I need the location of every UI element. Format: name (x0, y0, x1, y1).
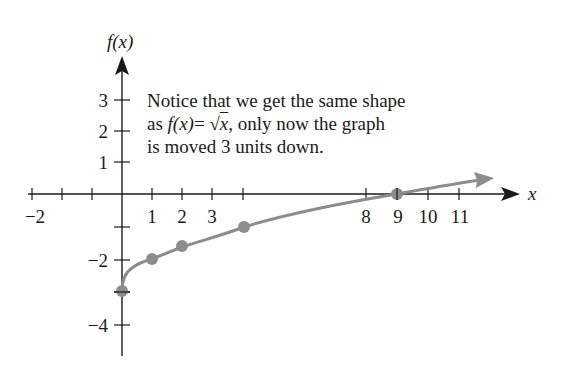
data-point (116, 285, 128, 297)
x-tick-label: 11 (451, 206, 469, 227)
y-tick-label: 2 (99, 121, 109, 142)
x-tick-label: 9 (393, 206, 403, 227)
y-tick-label: −2 (88, 250, 108, 271)
annotation-line-1: Notice that we get the same shape (147, 89, 406, 112)
curve-arrow-icon (474, 172, 494, 188)
graph-canvas: −2 1 2 3 8 9 10 11 3 2 1 −2 −4 x f(x) (0, 0, 564, 365)
data-point (238, 221, 250, 233)
data-point (176, 240, 188, 252)
y-tick-label: 3 (99, 90, 109, 111)
annotation-line-2: as f(x)= √x, only now the graph (147, 112, 406, 135)
x-tick-label: 3 (207, 206, 217, 227)
x-axis-label: x (527, 183, 537, 204)
annotation-line-3: is moved 3 units down. (147, 135, 406, 158)
y-axis-label: f(x) (107, 31, 133, 53)
x-tick-label: 10 (419, 206, 438, 227)
y-tick-label: −4 (88, 315, 109, 336)
x-tick-label: 2 (177, 206, 187, 227)
x-tick-label: 1 (147, 206, 157, 227)
sqrt-symbol: √ (209, 113, 219, 134)
x-tick-label: −2 (25, 206, 45, 227)
y-tick-label: 1 (99, 152, 109, 173)
annotation-text: Notice that we get the same shape as f(x… (147, 89, 406, 158)
x-tick-label: 8 (361, 206, 371, 227)
function-curve (122, 180, 480, 292)
data-point (146, 253, 158, 265)
